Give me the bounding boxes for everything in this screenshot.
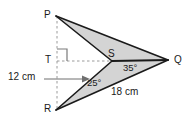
geometry-canvas (0, 0, 190, 125)
vertex-label-q: Q (174, 55, 182, 65)
edge-SQ (112, 60, 168, 61)
measure-label-12cm: 12 cm (8, 72, 35, 82)
angle-label-25: 25° (87, 78, 101, 88)
vertex-label-p: P (44, 10, 51, 20)
vertex-label-t: T (45, 55, 51, 65)
right-angle-marker (57, 49, 67, 61)
vertex-label-r: R (44, 104, 51, 114)
vertex-label-s: S (108, 49, 115, 59)
geometry-figure: P Q R S T 35° 25° 12 cm 18 cm (0, 0, 190, 125)
measure-label-18cm: 18 cm (111, 87, 138, 97)
angle-label-35: 35° (123, 63, 137, 73)
